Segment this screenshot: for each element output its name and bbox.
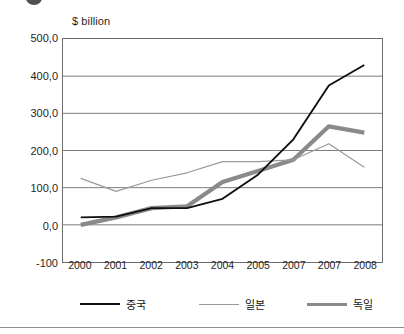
y-axis-tick-labels: -1000,0100,0200,0300,0400,0500,0	[0, 38, 58, 263]
x-tick-label: 2007	[318, 259, 341, 271]
x-tick-label: 2001	[104, 259, 127, 271]
legend-label: 독일	[353, 296, 373, 312]
y-tick-label: 200,0	[30, 145, 58, 157]
legend-line-swatch	[80, 303, 120, 305]
legend-item-일본[interactable]: 일본	[199, 296, 265, 312]
y-tick-label: 0,0	[43, 220, 58, 232]
series-lines	[81, 65, 365, 225]
chart-canvas	[63, 39, 382, 262]
y-tick-label: 100,0	[30, 182, 58, 194]
footer-divider	[0, 327, 404, 328]
x-tick-label: 2000	[68, 259, 91, 271]
legend-item-중국[interactable]: 중국	[80, 296, 146, 312]
x-axis-tick-labels: 200020012002200320042005200720072008	[62, 259, 383, 275]
y-axis-unit-label: $ billion	[72, 15, 110, 27]
series-line-독일	[81, 126, 365, 224]
x-tick-label: 2008	[353, 259, 376, 271]
legend-label: 일본	[245, 296, 265, 312]
plot-area	[62, 38, 383, 263]
series-line-중국	[81, 65, 365, 217]
x-tick-label: 2007	[282, 259, 305, 271]
x-tick-label: 2005	[246, 259, 269, 271]
y-tick-label: -100	[36, 257, 58, 269]
legend-line-swatch	[199, 304, 239, 305]
chart-legend: 중국일본독일	[62, 296, 383, 316]
x-tick-label: 2004	[211, 259, 234, 271]
legend-line-swatch	[307, 303, 347, 306]
gridlines	[63, 76, 382, 225]
truncated-title-glyph	[26, 0, 42, 5]
y-tick-label: 300,0	[30, 107, 58, 119]
y-tick-label: 500,0	[30, 32, 58, 44]
x-tick-label: 2002	[139, 259, 162, 271]
x-tick-label: 2003	[175, 259, 198, 271]
legend-item-독일[interactable]: 독일	[307, 296, 373, 312]
legend-label: 중국	[126, 296, 146, 312]
y-tick-label: 400,0	[30, 70, 58, 82]
chart-figure: $ billion -1000,0100,0200,0300,0400,0500…	[0, 0, 404, 334]
